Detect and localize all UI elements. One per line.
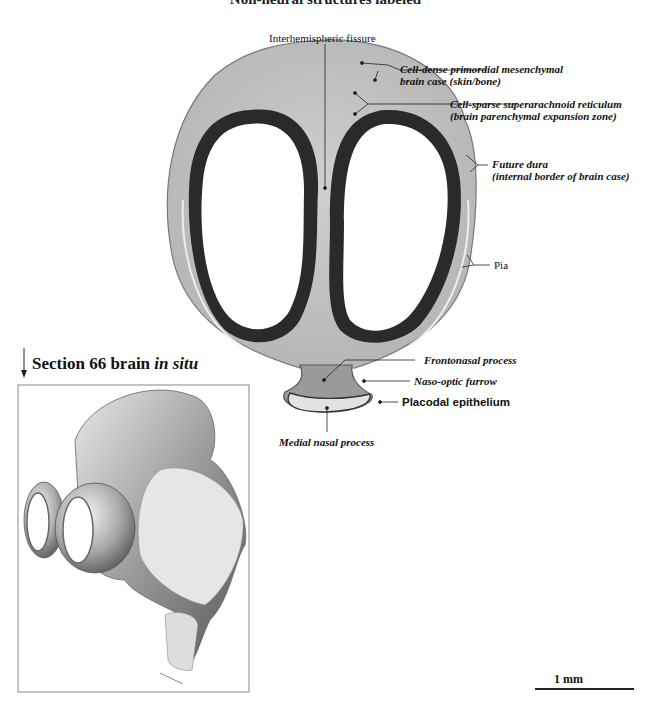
scale-bar-label: 1 mm <box>554 672 583 687</box>
label-frontonasal-process: Frontonasal process <box>424 354 517 366</box>
label-medial-nasal-process: Medial nasal process <box>279 436 374 448</box>
inset-heading: Section 66 brain in situ <box>32 354 198 374</box>
inset-heading-text: Section 66 brain <box>32 354 154 373</box>
label-future-dura-line2: (internal border of brain case) <box>492 170 630 182</box>
inset-3d-brain <box>18 385 249 692</box>
label-placodal-epithelium: Placodal epithelium <box>402 396 510 408</box>
label-pia: Pia <box>494 259 508 271</box>
label-cell-sparse-line1: Cell-sparse superarachnoid reticulum <box>450 98 622 110</box>
inset-heading-italic: in situ <box>154 354 198 373</box>
label-future-dura-line1: Future dura <box>492 158 548 170</box>
label-cell-dense-line2: brain case (skin/bone) <box>400 75 501 87</box>
label-naso-optic-furrow: Naso-optic furrow <box>414 375 497 387</box>
down-arrow-icon <box>21 348 27 378</box>
label-interhemispheric-fissure: Interhemispheric fissure <box>269 32 376 44</box>
label-cell-sparse-line2: (brain parenchymal expansion zone) <box>450 110 617 122</box>
label-cell-dense-line1: Cell-dense primordial mesenchymal <box>400 63 563 75</box>
